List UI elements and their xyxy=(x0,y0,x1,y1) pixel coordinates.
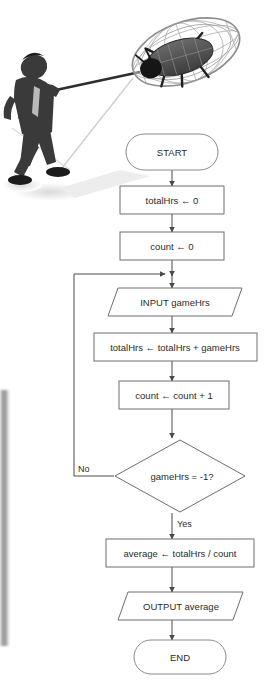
node-accumulate[interactable]: totalHrs ← totalHrs + gameHrs xyxy=(94,333,257,361)
node-start[interactable]: START xyxy=(126,134,218,170)
node-input-gamehrs[interactable]: INPUT gameHrs xyxy=(108,288,242,316)
node-increment-count-label: count ← count + 1 xyxy=(135,390,212,401)
node-init-totalhrs[interactable]: totalHrs ← 0 xyxy=(120,186,224,214)
node-init-count[interactable]: count ← 0 xyxy=(120,232,224,260)
flowchart: START totalHrs ← 0 count ← 0 INPUT gameH… xyxy=(0,0,273,687)
screenshot-root: START totalHrs ← 0 count ← 0 INPUT gameH… xyxy=(0,0,273,687)
node-decision-gamehrs[interactable]: gameHrs = -1? xyxy=(115,440,245,512)
node-decision-gamehrs-label: gameHrs = -1? xyxy=(150,471,213,482)
node-compute-average[interactable]: average ← totalHrs / count xyxy=(106,539,254,567)
node-output-average-label: OUTPUT average xyxy=(143,601,219,612)
edge-label-yes: Yes xyxy=(177,519,192,529)
node-end[interactable]: END xyxy=(134,640,226,674)
edge-label-no: No xyxy=(78,464,90,474)
node-compute-average-label: average ← totalHrs / count xyxy=(124,548,237,559)
node-end-label: END xyxy=(170,652,190,663)
node-init-totalhrs-label: totalHrs ← 0 xyxy=(146,195,199,206)
node-accumulate-label: totalHrs ← totalHrs + gameHrs xyxy=(110,342,240,353)
node-increment-count[interactable]: count ← count + 1 xyxy=(119,381,229,409)
node-start-label: START xyxy=(157,147,187,158)
node-output-average[interactable]: OUTPUT average xyxy=(118,592,243,620)
node-input-gamehrs-label: INPUT gameHrs xyxy=(140,297,210,308)
node-init-count-label: count ← 0 xyxy=(150,241,193,252)
